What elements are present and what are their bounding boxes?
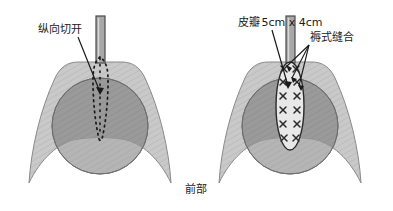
catheter-bar xyxy=(96,16,105,63)
mattress-suture-label: 褥式缝合 xyxy=(310,30,354,44)
flap-label-text: 皮瓣 xyxy=(238,15,260,29)
flap-label: 皮瓣5cm x 4cm xyxy=(214,15,340,29)
incision-label: 纵向切开 xyxy=(38,22,82,36)
flap-label-value: 5cm x 4cm xyxy=(261,16,322,29)
skin-flap-oval xyxy=(276,62,304,150)
figure-caption: 前部 xyxy=(185,182,207,196)
surgical-procedure-diagram: 纵向切开 xyxy=(0,0,393,211)
